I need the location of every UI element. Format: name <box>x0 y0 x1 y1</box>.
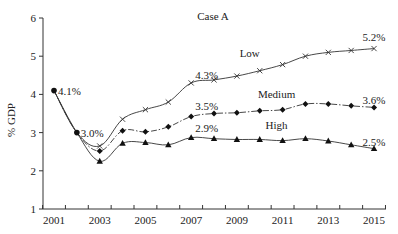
x-marker-icon <box>120 117 125 122</box>
x-tick-label: 2013 <box>317 214 340 226</box>
y-tick-label: 3 <box>31 127 37 139</box>
series-label-low: Low <box>240 47 260 59</box>
diamond-marker-icon <box>142 129 148 135</box>
diamond-marker-icon <box>165 124 171 130</box>
value-annotation: 2.5% <box>363 136 386 148</box>
y-tick-label: 5 <box>31 50 37 62</box>
value-annotation: 3.0% <box>81 127 104 139</box>
series-label-high: High <box>266 119 289 131</box>
x-tick-label: 2001 <box>43 214 65 226</box>
diamond-marker-icon <box>97 148 103 154</box>
y-tick-label: 4 <box>31 88 37 100</box>
value-annotation: 2.9% <box>195 122 218 134</box>
triangle-marker-icon <box>234 136 240 142</box>
y-tick-label: 2 <box>31 165 37 177</box>
value-annotation: 5.2% <box>363 31 386 43</box>
x-tick-label: 2003 <box>89 214 112 226</box>
diamond-marker-icon <box>257 108 263 114</box>
x-tick-label: 2005 <box>134 214 157 226</box>
x-marker-icon <box>189 80 194 85</box>
value-annotation: 3.5% <box>195 100 218 112</box>
diamond-marker-icon <box>348 103 354 109</box>
line-chart: Case A % GDP 123456200120032005200720092… <box>0 0 398 234</box>
value-annotation: 3.6% <box>363 94 386 106</box>
triangle-marker-icon <box>302 135 308 141</box>
diamond-marker-icon <box>188 114 194 120</box>
x-tick-label: 2015 <box>363 214 386 226</box>
circle-marker-icon <box>51 88 57 94</box>
axes: 12345620012003200520072009201120132015 <box>31 12 387 226</box>
y-tick-label: 6 <box>31 12 37 24</box>
chart-title: Case A <box>197 10 229 22</box>
value-annotation: 4.3% <box>195 69 218 81</box>
x-marker-icon <box>280 62 285 67</box>
value-annotation: 4.1% <box>58 85 81 97</box>
diamond-marker-icon <box>234 110 240 116</box>
y-tick-label: 1 <box>31 203 37 215</box>
diamond-marker-icon <box>325 101 331 107</box>
y-axis-label: % GDP <box>5 103 17 137</box>
x-marker-icon <box>143 107 148 112</box>
circle-marker-icon <box>74 130 80 136</box>
diamond-marker-icon <box>120 128 126 134</box>
diamond-marker-icon <box>280 107 286 113</box>
series-label-medium: Medium <box>258 88 296 100</box>
x-tick-label: 2009 <box>226 214 249 226</box>
x-marker-icon <box>166 99 171 104</box>
labels-layer: 4.1%3.0%4.3%3.5%2.9%5.2%3.6%2.5% <box>58 31 386 148</box>
x-tick-label: 2007 <box>180 214 203 226</box>
triangle-marker-icon <box>257 136 263 142</box>
x-tick-label: 2011 <box>272 214 294 226</box>
diamond-marker-icon <box>302 101 308 107</box>
